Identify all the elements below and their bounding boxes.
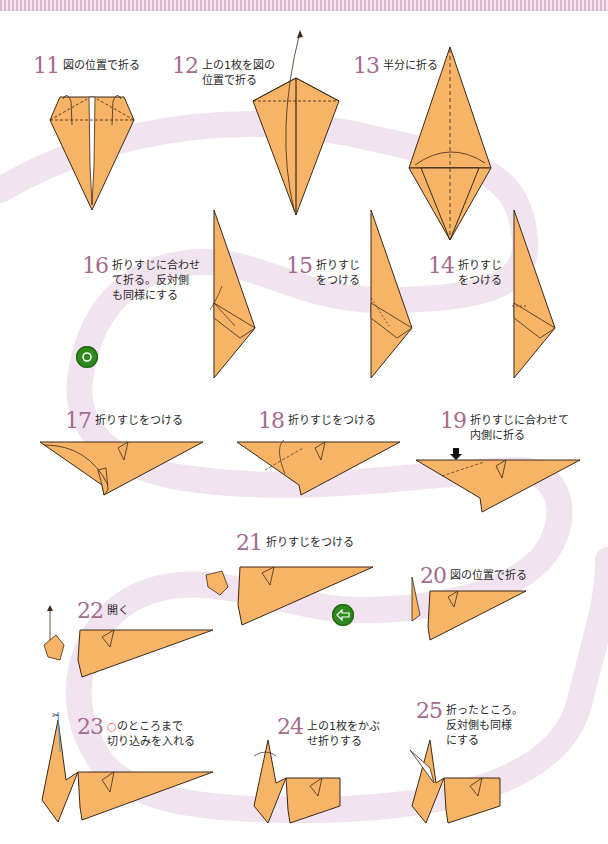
- step-number: 17: [65, 410, 91, 432]
- step-19: 19 折りすじに合わせて 内側に折る: [440, 410, 569, 443]
- step-number: 24: [277, 716, 303, 738]
- diagram-step-12: [245, 30, 345, 220]
- diagram-step-18: [235, 440, 405, 500]
- step-instruction: 折りすじ をつける: [458, 255, 502, 288]
- step-18: 18 折りすじをつける: [258, 410, 376, 432]
- step-number: 25: [416, 700, 442, 722]
- diagram-step-22: [38, 605, 218, 680]
- svg-text:✂: ✂: [52, 712, 60, 720]
- step-number: 14: [428, 255, 454, 277]
- diagram-step-15: [367, 208, 417, 383]
- step-number: 16: [82, 255, 108, 277]
- step-17: 17 折りすじをつける: [65, 410, 183, 432]
- step-instruction: 折りすじに合わせて 内側に折る: [470, 410, 569, 443]
- step-number: 11: [33, 55, 59, 77]
- turn-over-icon: [76, 346, 98, 368]
- flip-arrow-icon: [332, 604, 354, 626]
- step-16: 16 折りすじに合わせ て折る。反対側 も同様にする: [82, 255, 200, 303]
- step-number: 13: [353, 55, 379, 77]
- step-instruction: 折りすじをつける: [95, 410, 183, 428]
- step-instruction: 折りすじ をつける: [316, 255, 360, 288]
- step-number: 19: [440, 410, 466, 432]
- step-instruction: 折りすじをつける: [288, 410, 376, 428]
- step-instruction: 折りすじをつける: [266, 532, 354, 550]
- diagram-step-16: [210, 208, 260, 383]
- step-number: 12: [172, 55, 198, 77]
- diagram-step-25: [408, 738, 503, 828]
- diagram-step-17: [38, 440, 208, 500]
- step-11: 11 図の位置で折る: [33, 55, 140, 77]
- step-instruction: 図の位置で折る: [63, 55, 140, 73]
- diagram-step-24: [250, 738, 345, 828]
- step-15: 15 折りすじ をつける: [286, 255, 360, 288]
- step-21: 21 折りすじをつける: [236, 532, 354, 554]
- diagram-step-13: [405, 45, 495, 245]
- diagram-step-19: [414, 446, 584, 516]
- diagram-step-14: [510, 208, 560, 383]
- step-instruction: 折りすじに合わせ て折る。反対側 も同様にする: [112, 255, 200, 303]
- diagram-step-20: [396, 575, 531, 645]
- diagram-step-23: ✂: [38, 712, 218, 827]
- diagram-step-11: [45, 95, 140, 215]
- step-number: 18: [258, 410, 284, 432]
- step-14: 14 折りすじ をつける: [428, 255, 502, 288]
- step-number: 21: [236, 532, 262, 554]
- step-number: 15: [286, 255, 312, 277]
